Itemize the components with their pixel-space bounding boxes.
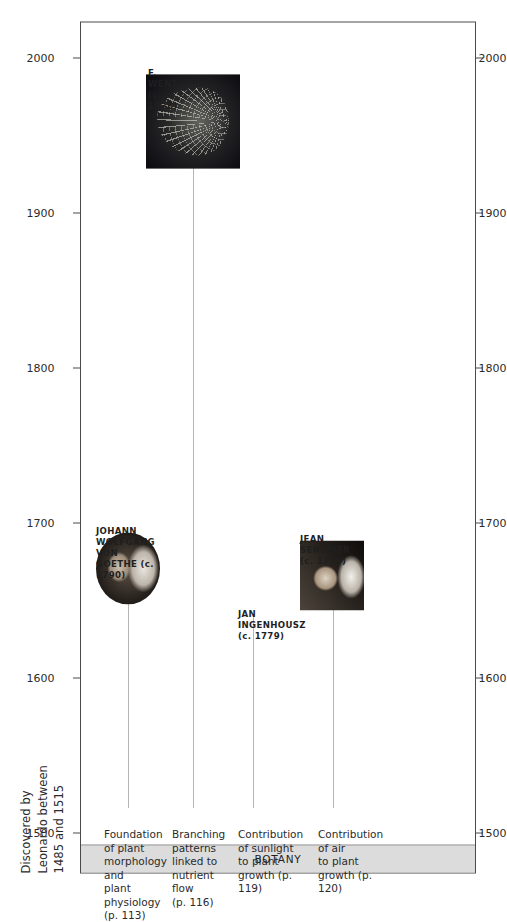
axis-tick [73, 367, 80, 368]
axis-tick-label: 1700 [34, 509, 47, 537]
event-description: Foundation of plant morphology and plant… [104, 827, 167, 922]
axis-tick [73, 677, 80, 678]
event-description: Contribution of sunlight to plant growth… [238, 827, 303, 895]
axis-tick [73, 522, 80, 523]
axis-tick-label: 2000 [34, 44, 47, 72]
axis-tick-label: 1600 [34, 664, 47, 692]
axis-tick-label: 2000 [486, 44, 499, 72]
event-person-label: F. WENT (c. 1928) [148, 67, 178, 111]
axis-tick [73, 212, 80, 213]
event-person-label: JOHANN WOLFGANG VON GOETHE (c. 1790) [96, 525, 155, 580]
event-leader-line [333, 610, 334, 807]
axis-tick [73, 832, 80, 833]
axis-tick-label: 1500 [486, 819, 499, 847]
axis-tick-label: 1700 [486, 509, 499, 537]
axis-tick-label: 1800 [486, 354, 499, 382]
axis-tick-label: 1600 [486, 664, 499, 692]
event-leader-line [253, 614, 254, 807]
event-description: Contribution of air to plant growth (p. … [318, 827, 383, 895]
plot-frame: BOTANY [80, 21, 476, 873]
event-description: Branching patterns linked to nutrient fl… [172, 827, 225, 908]
axis-tick-label: 1900 [486, 199, 499, 227]
event-person-label: JEAN SENEBIER (c. 1779) [300, 533, 350, 566]
axis-tick-label: 1800 [34, 354, 47, 382]
axis-tick-label: 1500 [34, 819, 47, 847]
axis-tick [73, 57, 80, 58]
axis-tick-label: 1900 [34, 199, 47, 227]
event-leader-line [193, 168, 194, 807]
event-person-label: JAN INGENHOUSZ (c. 1779) [238, 608, 306, 641]
event-leader-line [128, 604, 129, 807]
